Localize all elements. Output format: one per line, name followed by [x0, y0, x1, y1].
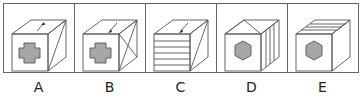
cube-e-drawing	[287, 3, 358, 73]
triangle-roof	[225, 20, 261, 34]
cube-d-drawing	[216, 3, 287, 73]
cube-c-drawing	[145, 3, 216, 73]
option-d-cube[interactable]	[216, 3, 287, 73]
cube-b-drawing	[74, 3, 145, 73]
right-face-diagonal	[48, 20, 66, 71]
option-e-label: E	[287, 79, 358, 95]
option-e-cube[interactable]	[287, 3, 358, 73]
option-a-cube[interactable]	[3, 3, 74, 73]
hexagon-icon	[235, 41, 251, 60]
option-d-label: D	[216, 79, 287, 95]
options-frame	[3, 3, 359, 73]
option-c-label: C	[145, 79, 216, 95]
option-c-cube[interactable]	[145, 3, 216, 73]
cross-icon	[90, 43, 111, 63]
option-b-label: B	[74, 79, 145, 95]
arrow-up-right-icon	[41, 22, 45, 25]
cross-icon	[19, 43, 40, 63]
cube-a-drawing	[3, 3, 74, 73]
option-a-label: A	[3, 79, 74, 95]
cube-top-face	[12, 20, 66, 34]
hexagon-icon	[306, 41, 322, 60]
option-b-cube[interactable]	[74, 3, 145, 73]
